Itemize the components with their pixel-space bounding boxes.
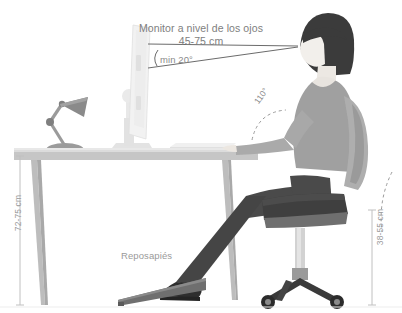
sight-lines (148, 44, 298, 68)
monitor (112, 25, 152, 148)
desk-height-dimension (16, 156, 24, 305)
ergonomics-diagram (0, 0, 402, 313)
seat-height-dimension (368, 210, 376, 305)
backrest-arc (381, 172, 392, 232)
footrest (118, 278, 206, 306)
elbow-angle-arc (252, 110, 286, 140)
